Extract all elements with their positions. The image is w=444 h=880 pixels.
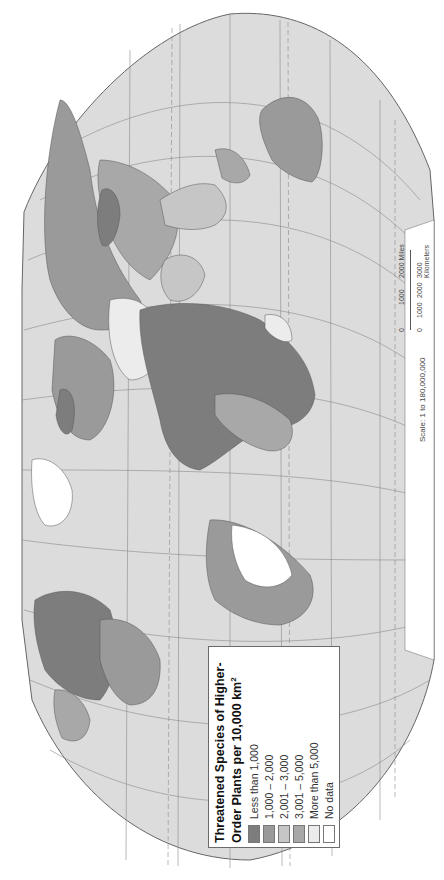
legend-label: 2,001 – 3,000 [278,755,290,819]
scale-bar [410,250,411,330]
scale-km-2000: 2000 [416,282,423,298]
legend-title: Threatened Species of Higher- Order Plan… [213,647,244,843]
legend-item: 3,001 – 5,000 [292,755,306,843]
legend-label: More than 5,000 [308,743,320,819]
legend-title-line2: Order Plants per 10,000 km [230,682,244,843]
legend-item: 2,001 – 3,000 [277,755,291,843]
scale-text: Scale: 1 to 180,000,000 [418,357,427,442]
map-legend: Threatened Species of Higher- Order Plan… [208,646,340,848]
scale-km-3000: 3000 Kilometers [416,230,430,278]
legend-title-line1: Threatened Species of Higher- [213,662,227,843]
legend-title-superscript: 2 [229,677,238,681]
legend-label: No data [323,782,335,819]
legend-item: More than 5,000 [307,743,321,843]
scale-miles-2000: 2000 Miles [398,244,405,278]
legend-label: Less than 1,000 [248,744,260,819]
legend-item: Less than 1,000 [247,744,261,843]
legend-swatch [248,825,260,843]
legend-item: No data [322,782,336,843]
legend-item: 1,000 – 2,000 [262,755,276,843]
legend-swatch [278,825,290,843]
legend-swatch [323,825,335,843]
scale-km-0: 0 [416,328,423,332]
legend-label: 3,001 – 5,000 [293,755,305,819]
legend-swatch [263,825,275,843]
scale-km-1000: 1000 [416,302,423,318]
legend-label: 1,000 – 2,000 [263,755,275,819]
legend-swatch [308,825,320,843]
legend-swatch [293,825,305,843]
map-scale: Scale: 1 to 180,000,000 0 1000 2000 Mile… [380,230,440,450]
scale-miles-1000: 1000 [398,289,405,305]
scale-miles-0: 0 [398,328,405,332]
